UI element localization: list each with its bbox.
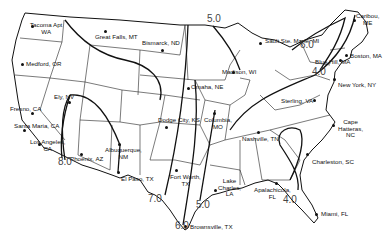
city-label: Tacoma Apt WA [30,22,62,35]
contour-6 [183,80,196,225]
city-label: Sterling, VA [281,98,313,105]
city-label: Ely, NV [54,94,74,101]
contour-value-label: 5.0 [207,13,221,24]
city-marker [315,213,318,216]
city-label: Medford, OR [26,61,61,68]
city-label: Nashville, TN [242,136,279,143]
city-marker [306,153,309,156]
city-marker [165,126,168,129]
city-label: Great Falls, MT [95,34,138,41]
city-marker [214,189,217,192]
city-marker [213,112,216,115]
city-marker [259,42,262,45]
city-label: Cape Hatteras, NC [338,119,363,139]
city-marker [333,78,336,81]
city-marker [161,49,164,52]
city-marker [175,169,178,172]
city-label: Dodge City, KS [158,117,200,124]
city-label: Charleston, SC [312,159,354,166]
city-marker [275,182,278,185]
city-label: Phoenix, AZ [70,156,103,163]
city-label: New York, NY [338,82,376,89]
contour-value-label: 6.0 [300,39,314,50]
city-marker [332,124,335,127]
city-label: Fort Worth, TX [170,174,201,187]
city-marker [257,131,260,134]
city-marker [345,54,348,57]
city-label: Albuquerque, NM [105,147,142,160]
contour-value-label: 4.0 [283,194,297,205]
city-label: Miami, FL [321,211,348,218]
city-marker [117,171,120,174]
city-marker [187,87,190,90]
city-label: Fresno, CA [10,106,41,113]
city-label: Omaha, NE [191,84,223,91]
city-label: Los Angeles, CA [30,139,65,152]
city-marker [21,63,24,66]
city-label: Bismarck, ND [142,40,180,47]
city-label: Lake Charles, LA [218,178,241,198]
city-label: Madison, WI [222,69,256,76]
contour-5-north [213,26,240,70]
contour-value-label: 4.0 [312,66,326,77]
city-label: El Paso, TX [121,176,154,183]
city-label: Columbia, MO [204,117,232,130]
contour-se [279,128,302,190]
city-label: Santa Maria, CA [14,123,59,130]
city-label: Brownsville, TX [190,224,233,231]
contour-value-label: 7.0 [148,193,162,204]
contour-value-label: 8.0 [58,156,72,167]
contour-value-label: 5.0 [196,199,210,210]
city-label: Boston, MA [350,53,382,60]
city-label: Caribou, ME [356,13,379,26]
city-marker [68,101,71,104]
city-label: Blue Hill, MA [315,59,350,66]
contour-value-label: 6.0 [175,220,189,231]
